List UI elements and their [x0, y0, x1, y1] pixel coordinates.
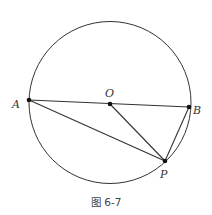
label-p: P: [159, 168, 168, 181]
label-b: B: [192, 104, 201, 117]
segment-op: [110, 104, 165, 161]
segment-ap: [29, 100, 165, 161]
label-o: O: [105, 87, 114, 100]
point-o: [108, 102, 113, 107]
point-p: [163, 159, 168, 164]
segment-bp: [165, 107, 189, 161]
label-a: A: [11, 98, 20, 111]
point-b: [187, 105, 192, 110]
figure-caption: 图 6-7: [91, 196, 122, 208]
geometry-figure: A O B P 图 6-7: [0, 0, 212, 215]
point-a: [27, 98, 32, 103]
